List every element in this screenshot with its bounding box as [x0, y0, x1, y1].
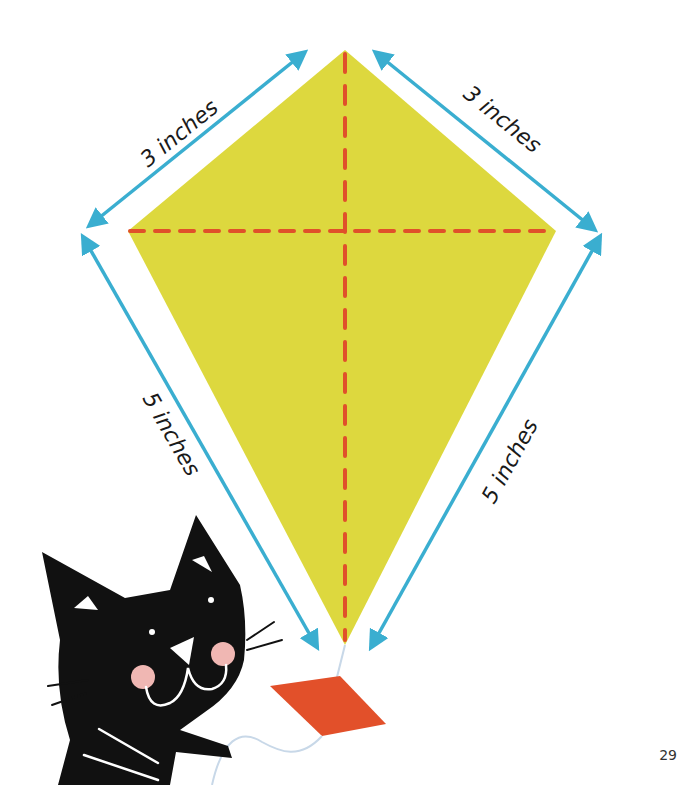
- cat-string: [212, 736, 322, 785]
- label-top-right: 3 inches: [459, 80, 546, 157]
- cat-cheek-left: [131, 665, 155, 689]
- cat-eye-right: [208, 597, 214, 603]
- page-number: 29: [659, 747, 677, 763]
- kite-tail: [270, 676, 386, 736]
- cat-cheek-right: [211, 642, 235, 666]
- label-bottom-right: 5 inches: [477, 415, 544, 508]
- kite-diagram: 3 inches 3 inches 5 inches 5 inches: [0, 0, 695, 785]
- cat-eye-left: [149, 629, 155, 635]
- cat-illustration: [42, 515, 282, 785]
- label-top-left: 3 inches: [135, 95, 222, 172]
